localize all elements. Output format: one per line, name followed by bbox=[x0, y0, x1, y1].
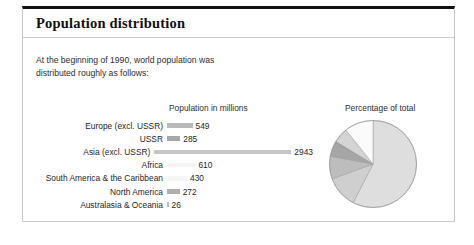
bar-row: North America272 bbox=[23, 185, 313, 198]
population-distribution-panel: Population distribution At the beginning… bbox=[22, 6, 455, 222]
bar-row-value: 610 bbox=[198, 160, 212, 170]
bar-row-track: 430 bbox=[167, 172, 313, 185]
bar-row-label: South America & the Caribbean bbox=[23, 173, 167, 183]
bar-row-fill bbox=[167, 189, 180, 194]
screenshot-root: Population distribution At the beginning… bbox=[0, 0, 474, 245]
bar-row-fill bbox=[167, 136, 180, 141]
bar-row-label: Australasia & Oceania bbox=[23, 200, 167, 210]
bar-row-value: 285 bbox=[183, 134, 197, 144]
bar-chart-rows: Europe (excl. USSR)549USSR285Asia (excl.… bbox=[23, 119, 313, 211]
bar-row-track: 285 bbox=[167, 132, 313, 145]
bar-row-track: 2943 bbox=[154, 145, 313, 158]
bar-row-fill bbox=[167, 176, 187, 181]
intro-line-1: At the beginning of 1990, world populati… bbox=[36, 54, 214, 67]
pie-chart-svg bbox=[328, 119, 418, 209]
pie-chart-header: Percentage of total bbox=[345, 103, 415, 113]
bar-row: South America & the Caribbean430 bbox=[23, 172, 313, 185]
bar-row-track: 549 bbox=[167, 119, 313, 132]
bar-row-value: 26 bbox=[172, 200, 181, 210]
bar-row-value: 430 bbox=[190, 173, 204, 183]
bar-row-value: 272 bbox=[183, 187, 197, 197]
bar-row-track: 26 bbox=[167, 198, 313, 211]
bar-row: Africa610 bbox=[23, 159, 313, 172]
bar-row-fill bbox=[167, 163, 195, 168]
bar-row-value: 549 bbox=[196, 121, 210, 131]
bar-row-label: USSR bbox=[23, 134, 167, 144]
bar-row-label: Europe (excl. USSR) bbox=[23, 121, 167, 131]
bar-row-fill bbox=[154, 150, 291, 155]
bar-row: Australasia & Oceania26 bbox=[23, 198, 313, 211]
bar-row-track: 610 bbox=[167, 159, 313, 172]
intro-text: At the beginning of 1990, world populati… bbox=[36, 54, 214, 80]
panel-title-bar: Population distribution bbox=[23, 9, 454, 38]
bar-chart-header: Population in millions bbox=[169, 103, 248, 113]
page-title: Population distribution bbox=[36, 15, 185, 32]
bar-row-track: 272 bbox=[167, 185, 313, 198]
bar-row: USSR285 bbox=[23, 132, 313, 145]
bar-row-label: North America bbox=[23, 187, 167, 197]
bar-row-fill bbox=[167, 123, 193, 128]
bar-row-label: Africa bbox=[23, 160, 167, 170]
bar-row: Asia (excl. USSR)2943 bbox=[23, 145, 313, 158]
bar-row-label: Asia (excl. USSR) bbox=[23, 147, 154, 157]
bar-row: Europe (excl. USSR)549 bbox=[23, 119, 313, 132]
bar-row-value: 2943 bbox=[294, 147, 313, 157]
bar-row-fill bbox=[167, 202, 169, 207]
intro-line-2: distributed roughly as follows: bbox=[36, 67, 214, 80]
